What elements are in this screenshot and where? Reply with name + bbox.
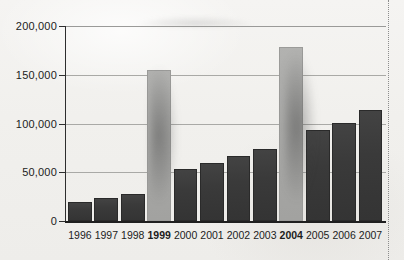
x-axis-label-2003: 2003	[253, 229, 276, 241]
bar-1996	[68, 202, 92, 222]
y-axis-label-200000: 200,000	[16, 20, 57, 32]
y-axis-label-0: 0	[51, 215, 57, 227]
y-axis-label-50000: 50,000	[22, 166, 57, 178]
bar-2004	[279, 47, 303, 221]
x-axis-label-2000: 2000	[174, 229, 197, 241]
bar-1997	[94, 198, 118, 221]
gridline-200000	[65, 26, 386, 27]
x-axis-label-2007: 2007	[359, 229, 382, 241]
bar-2003	[253, 149, 277, 221]
bar-2001	[200, 163, 224, 222]
bar-2005	[306, 130, 330, 221]
x-axis-line	[65, 221, 386, 223]
x-axis-label-1999: 1999	[147, 229, 170, 241]
bar-1998	[121, 194, 145, 221]
bar-2000	[174, 169, 198, 221]
bar-1999	[147, 70, 171, 221]
x-axis-label-2006: 2006	[332, 229, 355, 241]
x-axis-label-1997: 1997	[95, 229, 118, 241]
bar-2007	[359, 110, 383, 221]
x-axis-label-2002: 2002	[227, 229, 250, 241]
x-axis-label-1998: 1998	[121, 229, 144, 241]
x-axis-label-2004: 2004	[280, 229, 303, 241]
y-axis-label-150000: 150,000	[16, 69, 57, 81]
x-axis-label-2005: 2005	[306, 229, 329, 241]
x-axis-label-1996: 1996	[68, 229, 91, 241]
bar-2002	[227, 156, 251, 221]
bar-chart: 200,000150,000100,00050,0000 19961997199…	[0, 0, 404, 260]
x-axis-label-2001: 2001	[200, 229, 223, 241]
scan-smudge-top	[120, 0, 270, 26]
y-axis-label-100000: 100,000	[16, 118, 57, 130]
bar-2006	[332, 123, 356, 221]
gridline-150000	[65, 75, 386, 76]
y-axis-line	[65, 26, 66, 222]
